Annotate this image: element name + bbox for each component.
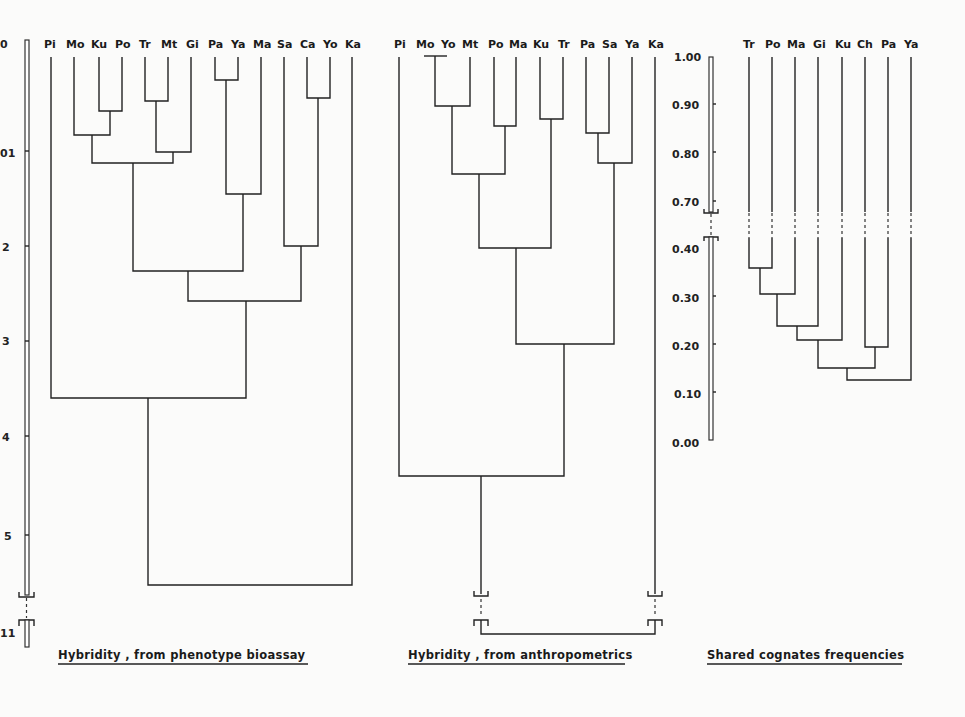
leaf-label: Sa <box>277 38 292 51</box>
leaf-label: Po <box>115 38 131 51</box>
leaf-label: Po <box>765 38 781 51</box>
leaf-label: Ku <box>533 38 549 51</box>
leaf-label: Ch <box>857 38 873 51</box>
leaf-label: Ya <box>230 38 245 51</box>
dendrogram-tree <box>51 57 352 585</box>
left-axis-labels: 0 01 2 3 4 5 11 <box>0 38 15 640</box>
left-axis-bar <box>19 40 34 647</box>
leaf-label: Yo <box>322 38 338 51</box>
leaf-labels: Pi Mo Ku Po Tr Mt Gi Pa Ya Ma Sa Ca Yo K… <box>44 38 361 51</box>
leaf-label: Pi <box>44 38 56 51</box>
right-axis-bar <box>704 57 718 440</box>
axis-tick: 5 <box>4 530 12 543</box>
leaf-label: Ma <box>787 38 805 51</box>
axis-tick: 11 <box>0 627 15 640</box>
leaf-label: Tr <box>139 38 151 51</box>
leaf-label: Pa <box>208 38 223 51</box>
axis-tick: 0.30 <box>672 292 699 305</box>
axis-tick: 01 <box>0 147 15 160</box>
leaf-label: Mt <box>161 38 177 51</box>
panel-anthropometrics: Pi Mo Yo Mt Po Ma Ku Tr Pa Sa Ya Ka <box>394 38 664 664</box>
leaf-label: Ya <box>624 38 639 51</box>
leaf-label: Po <box>488 38 504 51</box>
axis-tick: 0.90 <box>672 99 699 112</box>
right-axis-labels: 1.00 0.90 0.80 0.70 0.40 0.30 0.20 0.10 … <box>672 51 701 450</box>
leaf-label: Sa <box>602 38 617 51</box>
leaf-label: Ca <box>300 38 316 51</box>
panel-caption: Hybridity , from phenotype bioassay <box>58 648 306 662</box>
panel-cognates: 1.00 0.90 0.80 0.70 0.40 0.30 0.20 0.10 … <box>672 38 918 664</box>
axis-tick: 0.00 <box>672 437 699 450</box>
axis-tick: 2 <box>2 241 10 254</box>
axis-tick: 0.80 <box>672 148 699 161</box>
panel-caption: Hybridity , from anthropometrics <box>408 648 633 662</box>
leaf-label: Tr <box>743 38 755 51</box>
leaf-label: Ma <box>253 38 271 51</box>
panel-caption: Shared cognates frequencies <box>707 648 904 662</box>
panel-phenotype: 0 01 2 3 4 5 11 Pi Mo Ku Po Tr <box>0 38 361 664</box>
leaf-label: Mo <box>66 38 85 51</box>
axis-tick: 0.10 <box>674 388 701 401</box>
leaf-label: Yo <box>440 38 456 51</box>
axis-tick: 0.70 <box>672 196 699 209</box>
leaf-label: Tr <box>558 38 570 51</box>
leaf-label: Ku <box>91 38 107 51</box>
leaf-label: Pa <box>881 38 896 51</box>
leaf-labels: Tr Po Ma Gi Ku Ch Pa Ya <box>743 38 918 51</box>
leaf-label: Pi <box>394 38 406 51</box>
figure-canvas: 0 01 2 3 4 5 11 Pi Mo Ku Po Tr <box>0 0 965 717</box>
dendrogram-tree <box>749 57 911 380</box>
leaf-label: Mo <box>416 38 435 51</box>
leaf-label: Ka <box>345 38 361 51</box>
axis-tick: 3 <box>2 335 10 348</box>
leaf-label: Ya <box>903 38 918 51</box>
axis-tick: 0 <box>0 38 8 51</box>
axis-tick: 0.20 <box>672 340 699 353</box>
leaf-label: Pa <box>580 38 595 51</box>
axis-tick: 1.00 <box>674 51 701 64</box>
leaf-label: Gi <box>186 38 199 51</box>
leaf-label: Gi <box>813 38 826 51</box>
leaf-label: Ku <box>835 38 851 51</box>
leaf-label: Ka <box>648 38 664 51</box>
leaf-labels: Pi Mo Yo Mt Po Ma Ku Tr Pa Sa Ya Ka <box>394 38 664 51</box>
leaf-label: Ma <box>509 38 527 51</box>
axis-tick: 0.40 <box>672 243 699 256</box>
axis-tick: 4 <box>2 431 10 444</box>
dendrogram-tree <box>399 56 662 634</box>
leaf-label: Mt <box>462 38 478 51</box>
